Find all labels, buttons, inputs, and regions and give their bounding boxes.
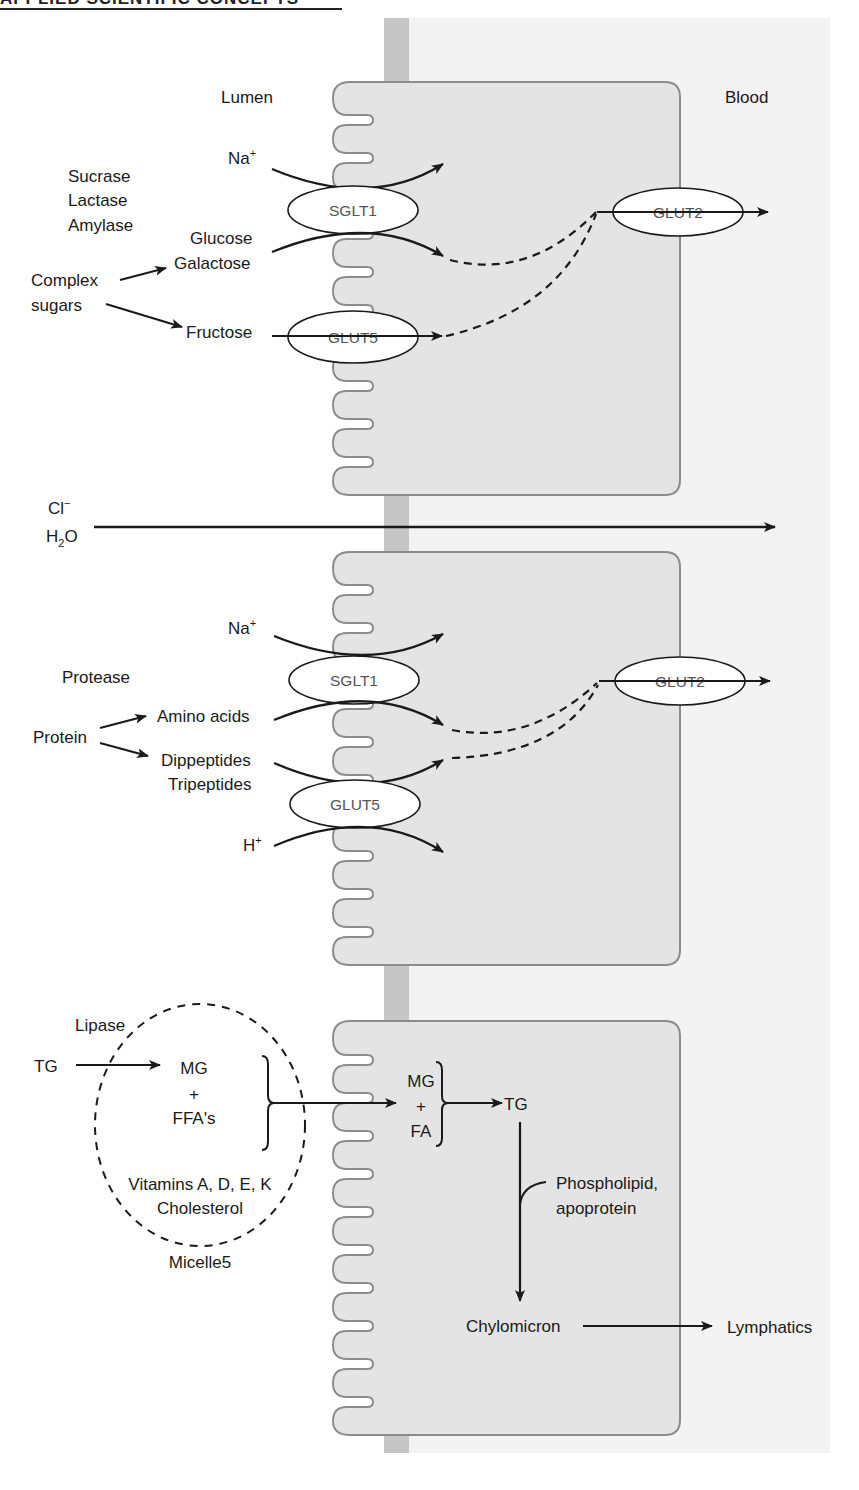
arrow-to-peptides-icon <box>100 743 148 756</box>
mg-lumen-label: MG <box>180 1059 207 1078</box>
glucose-label: Glucose <box>190 229 252 248</box>
glut5-label-2: GLUT5 <box>330 796 380 813</box>
micelle-label: Micelle5 <box>169 1253 231 1272</box>
protease-label: Protease <box>62 668 130 687</box>
sglt1-label: SGLT1 <box>329 202 377 219</box>
phospholipid-label: Phospholipid, <box>556 1174 658 1193</box>
enzyme-amylase: Amylase <box>68 216 133 235</box>
fa-cell-label: FA <box>411 1122 432 1141</box>
h-ion-label: H+ <box>243 834 262 855</box>
intestinal-absorption-diagram: Lumen Blood Na+ Sucrase Lactase Amylase … <box>0 0 859 1490</box>
enterocyte-cell-2 <box>333 552 680 965</box>
water-label: H2O <box>46 527 78 549</box>
amino-acids-label: Amino acids <box>157 707 250 726</box>
plus-cell-label: + <box>416 1097 426 1116</box>
chylomicron-label: Chylomicron <box>466 1317 560 1336</box>
galactose-label: Galactose <box>174 254 251 273</box>
mg-cell-label: MG <box>407 1072 434 1091</box>
ffa-label: FFA's <box>173 1109 216 1128</box>
tripeptides-label: Tripeptides <box>168 775 251 794</box>
enzyme-lactase: Lactase <box>68 191 128 210</box>
complex-sugars-label-line2: sugars <box>31 296 82 315</box>
arrow-to-glucose-icon <box>120 268 166 280</box>
arrow-to-amino-acids-icon <box>100 716 146 728</box>
plus-lumen-label: + <box>189 1085 199 1104</box>
na-ion-label-2: Na+ <box>228 617 256 638</box>
chloride-label: Cl− <box>48 497 71 518</box>
blood-label: Blood <box>725 88 768 107</box>
tg-lumen-label: TG <box>34 1057 58 1076</box>
tg-cell-label: TG <box>504 1095 528 1114</box>
glut5-label: GLUT5 <box>328 329 378 346</box>
lumen-bracket-icon <box>262 1056 274 1150</box>
sglt1-label-2: SGLT1 <box>330 672 378 689</box>
enzyme-sucrase: Sucrase <box>68 167 130 186</box>
na-ion-label: Na+ <box>228 147 256 168</box>
enterocyte-cell-3 <box>333 1021 680 1435</box>
lipase-label: Lipase <box>75 1016 125 1035</box>
apoprotein-label: apoprotein <box>556 1199 636 1218</box>
cholesterol-label: Cholesterol <box>157 1199 243 1218</box>
arrow-to-fructose-icon <box>106 304 182 327</box>
fructose-label: Fructose <box>186 323 252 342</box>
vitamins-label: Vitamins A, D, E, K <box>128 1175 272 1194</box>
complex-sugars-label-line1: Complex <box>31 271 99 290</box>
dipeptides-label: Dippeptides <box>161 751 251 770</box>
lymphatics-label: Lymphatics <box>727 1318 812 1337</box>
enterocyte-cell-1 <box>333 82 680 495</box>
protein-label: Protein <box>33 728 87 747</box>
lumen-label: Lumen <box>221 88 273 107</box>
